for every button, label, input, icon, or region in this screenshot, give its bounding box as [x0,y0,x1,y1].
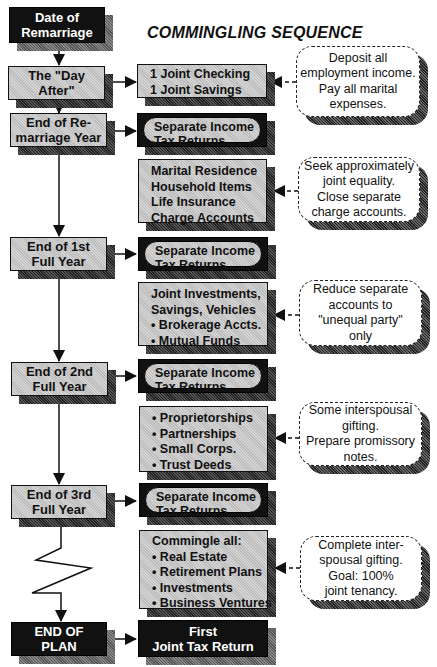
action-line: First [189,624,217,639]
step-label: End of 2nd [26,364,93,379]
note-line: Pay all marital [319,82,398,98]
action-joint-accounts: 1 Joint Checking 1 Joint Savings [137,64,267,98]
action-joint-investments: Joint Investments, Savings, Vehicles • B… [138,282,268,346]
action-line: • Retirement Plans [152,565,267,581]
step-label: marriage Year [16,130,102,145]
action-line: Tax Returns [155,258,261,272]
step-end-2nd-full-year: End of 2nd Full Year [11,362,108,396]
action-line: • Investments [152,581,267,597]
diagram-title: COMMINGLING SEQUENCE [147,24,363,42]
action-line: Separate Income [156,490,261,504]
note-line: Complete inter- [318,538,403,554]
step-day-after: The "Day After" [8,66,105,100]
step-label: Remarriage [21,25,93,40]
action-tax-returns-2: Separate Income Tax Returns [138,237,268,271]
note-line: only [349,329,372,345]
note-line: "unequal party" [318,313,403,329]
step-end-3rd-full-year: End of 3rd Full Year [11,485,107,519]
step-end-of-plan: END OF PLAN [11,622,107,656]
action-line: • Proprietorships [152,411,267,427]
action-line: Joint Tax Return [152,639,254,654]
step-label: End of 1st [27,239,90,254]
action-line: Separate Income [154,120,260,134]
note-line: expenses. [330,97,387,113]
action-line: 1 Joint Savings [150,83,266,99]
step-date-of-remarriage: Date of Remarriage [9,7,105,43]
step-label: Full Year [32,254,86,269]
note-line: notes. [343,450,377,466]
note-joint-equality: Seek approximately joint equality. Close… [298,157,420,222]
note-deposit-income: Deposit all employment income. Pay all m… [296,46,420,117]
note-line: joint tenancy. [325,584,398,600]
step-label: End of Re- [26,115,91,130]
note-line: employment income. [300,66,415,82]
action-business-assets: • Proprietorships • Partnerships • Small… [139,406,268,472]
note-line: accounts to [329,298,393,314]
note-reduce-separate: Reduce separate accounts to "unequal par… [299,280,422,346]
action-line: • Partnerships [152,427,267,443]
action-line: 1 Joint Checking [150,67,266,83]
action-line: • Mutual Funds [151,334,267,350]
action-line: Life Insurance [151,195,266,211]
note-line: gifting. [342,419,379,435]
note-line: Deposit all [329,51,387,67]
step-label: PLAN [41,639,76,654]
action-line: • Real Estate [152,550,267,566]
action-line: • Small Corps. [152,442,267,458]
action-tax-returns-3: Separate Income Tax Returns [138,359,268,393]
action-line: Household Items [151,180,266,196]
note-line: Prepare promissory [306,434,415,450]
action-line: Charge Accounts [151,211,266,227]
note-line: Reduce separate [313,282,408,298]
step-label: END OF [34,624,83,639]
note-line: Seek approximately [304,159,414,175]
note-interspousal-gifting: Some interspousal gifting. Prepare promi… [299,402,422,466]
step-label: Full Year [33,379,87,394]
action-marital-residence: Marital Residence Household Items Life I… [138,159,267,223]
note-line: Close separate [317,190,401,206]
note-line: Goal: 100% [328,569,393,585]
action-tax-returns-4: Separate Income Tax Returns [139,483,268,517]
action-line: • Business Ventures [152,596,267,612]
action-line: • Brokerage Accts. [151,318,267,334]
step-label: Full Year [32,502,86,517]
action-line: Tax Returns [155,380,261,394]
step-end-1st-full-year: End of 1st Full Year [10,237,107,271]
action-line: Separate Income [155,366,261,380]
step-label: End of 3rd [27,487,91,502]
note-line: Some interspousal [309,403,413,419]
action-line: Marital Residence [151,164,266,180]
action-line: Separate Income [155,244,261,258]
note-line: spousal gifting. [319,553,402,569]
action-line: Joint Investments, [151,287,267,303]
action-line: Tax Returns [156,504,261,518]
action-line: Commingle all: [152,534,267,550]
action-line: Tax Returns [154,134,260,148]
action-first-joint-return: First Joint Tax Return [138,620,268,657]
step-label: Date of [35,10,79,25]
step-end-remarriage-year: End of Re- marriage Year [10,113,107,147]
action-tax-returns-1: Separate Income Tax Returns [137,113,267,147]
note-complete-gifting: Complete inter- spousal gifting. Goal: 1… [300,536,422,601]
note-line: joint equality. [323,174,395,190]
action-commingle-all: Commingle all: • Real Estate • Retiremen… [139,530,268,609]
step-label: The "Day After" [9,68,104,98]
action-line: • Trust Deeds [152,458,267,474]
note-line: charge accounts. [311,205,406,221]
action-line: Savings, Vehicles [151,303,267,319]
